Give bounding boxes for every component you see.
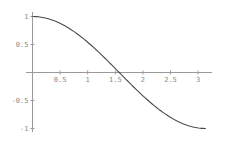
x-tick-label: 2	[141, 76, 145, 84]
y-tick-label: 1	[24, 13, 28, 21]
y-tick-label: -0.5	[12, 97, 29, 105]
x-tick-label: 1.5	[109, 76, 122, 84]
y-tick-label: 0.5	[16, 41, 29, 49]
x-tick-label: 3	[196, 76, 200, 84]
x-tick-label: 2.5	[164, 76, 177, 84]
y-tick-label: -1	[20, 125, 28, 133]
x-tick-label: 1	[86, 76, 90, 84]
cos-plot: 0.511.522.53 -1-0.50.51	[0, 0, 226, 142]
x-tick-label: 0.5	[54, 76, 67, 84]
